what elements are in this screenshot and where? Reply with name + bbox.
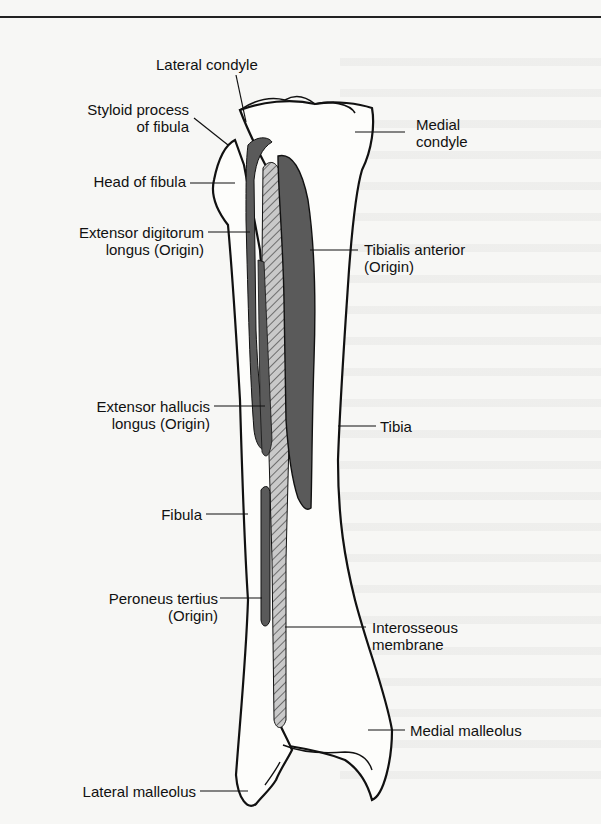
label-text: Interosseous (372, 619, 458, 636)
peroneus-tertius-origin (261, 487, 270, 626)
label-text: condyle (416, 133, 468, 150)
label-text: (Origin) (50, 607, 218, 624)
label-peroneus-tertius: Peroneus tertius (Origin) (50, 590, 218, 624)
label-medial-malleolus: Medial malleolus (410, 722, 522, 739)
label-interosseous-membrane: Interosseous membrane (372, 619, 458, 653)
label-tibia: Tibia (380, 418, 412, 435)
label-text: Peroneus tertius (50, 590, 218, 607)
label-lateral-condyle: Lateral condyle (156, 56, 258, 73)
label-extensor-digitorum-longus: Extensor digitorum longus (Origin) (20, 224, 204, 258)
label-text: membrane (372, 636, 458, 653)
label-extensor-hallucis-longus: Extensor hallucis longus (Origin) (40, 398, 210, 432)
label-text: longus (Origin) (40, 415, 210, 432)
label-fibula: Fibula (100, 506, 202, 523)
label-text: Head of fibula (93, 173, 186, 190)
label-text: Medial (416, 116, 468, 133)
label-text: Lateral malleolus (83, 783, 196, 800)
label-text: Fibula (161, 506, 202, 523)
label-text: longus (Origin) (20, 241, 204, 258)
label-text: Lateral condyle (156, 56, 258, 73)
label-lateral-malleolus: Lateral malleolus (20, 783, 196, 800)
label-text: Medial malleolus (410, 722, 522, 739)
label-tibialis-anterior: Tibialis anterior (Origin) (364, 241, 465, 275)
label-text: Extensor hallucis (40, 398, 210, 415)
label-text: Tibia (380, 418, 412, 435)
label-styloid-process: Styloid process of fibula (52, 101, 189, 135)
label-head-of-fibula: Head of fibula (40, 173, 186, 190)
label-text: Extensor digitorum (20, 224, 204, 241)
label-text: (Origin) (364, 258, 465, 275)
label-text: of fibula (52, 118, 189, 135)
label-medial-condyle: Medial condyle (416, 116, 468, 150)
label-text: Tibialis anterior (364, 241, 465, 258)
label-text: Styloid process (52, 101, 189, 118)
